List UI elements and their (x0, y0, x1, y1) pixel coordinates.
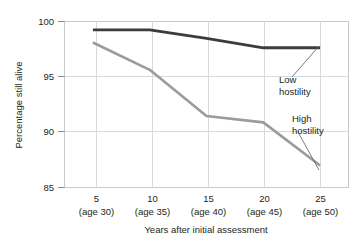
x-tick-label-25: 25 (315, 193, 326, 204)
y-tick-label-90: 90 (43, 126, 54, 137)
y-tick-label-95: 95 (43, 71, 54, 82)
annotation-high-hostility-line1: High (292, 113, 312, 124)
survival-line-chart: 100 95 90 85 Percentage still alive Low … (0, 0, 364, 239)
x-tick-label-5: 5 (94, 193, 99, 204)
x-tick-label-10: 10 (147, 193, 158, 204)
x-tick-label-15: 15 (203, 193, 214, 204)
x-axis-title: Years after initial assessment (144, 224, 268, 235)
chart-container: 100 95 90 85 Percentage still alive Low … (0, 0, 364, 239)
x-tick-sublabel-age-35: (age 35) (135, 206, 170, 217)
annotation-low-hostility-line1: Low (279, 74, 297, 85)
annotation-high-hostility-line2: hostility (292, 125, 324, 136)
x-tick-label-20: 20 (259, 193, 270, 204)
x-tick-sublabel-age-50: (age 50) (303, 206, 338, 217)
x-tick-sublabel-age-45: (age 45) (247, 206, 282, 217)
y-tick-label-85: 85 (43, 182, 54, 193)
y-tick-label-100: 100 (38, 16, 54, 27)
x-tick-sublabel-age-40: (age 40) (191, 206, 226, 217)
y-axis-title: Percentage still alive (13, 61, 24, 148)
x-tick-sublabel-age-30: (age 30) (79, 206, 114, 217)
annotation-low-hostility-line2: hostility (279, 86, 311, 97)
